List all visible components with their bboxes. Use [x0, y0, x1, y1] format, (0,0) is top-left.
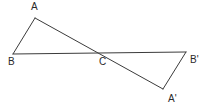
- geometry-figure: A B C B' A': [0, 0, 208, 110]
- segment-Aprime-Bprime: [163, 52, 186, 89]
- vertex-label-C: C: [99, 57, 106, 67]
- vertex-label-Bprime: B': [190, 55, 199, 65]
- vertex-label-B: B: [8, 57, 15, 67]
- segment-A-B: [13, 18, 35, 54]
- vertex-label-A: A: [31, 2, 38, 12]
- vertex-label-Aprime: A': [168, 94, 177, 104]
